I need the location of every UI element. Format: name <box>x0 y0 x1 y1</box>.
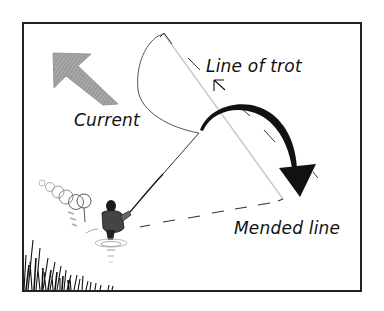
dash <box>188 58 200 70</box>
fly-fishing-mend-diagram: Line of trot Current Mended line <box>0 0 384 311</box>
fly-rod <box>130 174 163 212</box>
reeds <box>24 240 113 290</box>
dash <box>264 130 275 142</box>
angler <box>95 200 131 262</box>
small-arrow-icon <box>214 80 225 91</box>
label-current: Current <box>74 110 140 130</box>
fly-line <box>163 133 199 174</box>
label-line-of-trot: Line of trot <box>206 56 302 76</box>
drift-rings <box>39 180 98 233</box>
mend-arrow-icon <box>200 104 316 197</box>
line-belly <box>138 34 199 133</box>
current-arrow-icon <box>53 53 118 105</box>
label-mended-line: Mended line <box>234 218 340 238</box>
illustration <box>0 0 384 311</box>
dash <box>313 172 318 178</box>
